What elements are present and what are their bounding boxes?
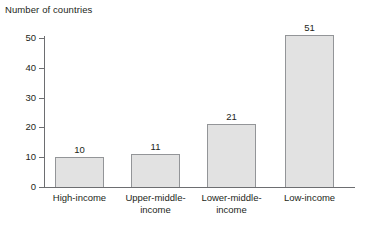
bar-3	[207, 124, 256, 187]
bar-value-label-1: 10	[45, 144, 114, 155]
x-axis-label-line: Low-income	[265, 192, 354, 204]
x-axis-label-line: income	[187, 204, 276, 216]
y-tick-mark	[39, 68, 45, 69]
y-tick-40: 40	[0, 68, 45, 69]
y-tick-20: 20	[0, 127, 45, 128]
y-tick-50: 50	[0, 38, 45, 39]
bar-2	[131, 154, 180, 187]
bar-value-label-2: 11	[121, 141, 190, 152]
y-axis-line	[44, 36, 45, 188]
chart-title: Number of countries	[5, 4, 92, 16]
y-tick-0: 0	[0, 187, 45, 188]
y-tick-30: 30	[0, 98, 45, 99]
y-tick-mark	[39, 187, 45, 188]
y-tick-mark	[39, 38, 45, 39]
y-tick-10: 10	[0, 157, 45, 158]
y-tick-label: 10	[2, 152, 36, 162]
bar-4	[285, 35, 334, 187]
bar-chart: Number of countries 01020304050 10High-i…	[0, 0, 370, 230]
y-tick-label: 0	[2, 182, 36, 192]
y-tick-label: 20	[2, 122, 36, 132]
y-tick-mark	[39, 127, 45, 128]
y-tick-label: 40	[2, 63, 36, 73]
x-axis-label-4: Low-income	[265, 192, 354, 204]
x-axis-line	[44, 187, 355, 188]
x-axis-label-3: Lower-middle-income	[187, 192, 276, 216]
y-tick-mark	[39, 98, 45, 99]
x-axis-label-line: Lower-middle-	[187, 192, 276, 204]
y-tick-label: 30	[2, 93, 36, 103]
bar-value-label-4: 51	[275, 22, 344, 33]
bar-value-label-3: 21	[197, 111, 266, 122]
y-tick-label: 50	[2, 33, 36, 43]
y-tick-mark	[39, 157, 45, 158]
bar-1	[55, 157, 104, 187]
